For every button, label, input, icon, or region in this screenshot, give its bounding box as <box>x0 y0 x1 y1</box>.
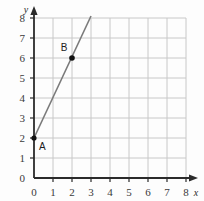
data-point-a <box>31 135 36 140</box>
y-axis-name: y <box>23 4 29 15</box>
y-tick-label-5: 5 <box>20 72 26 84</box>
y-axis-arrow <box>30 6 37 15</box>
x-tick-labels: 0 1 2 3 4 5 6 7 8 <box>31 186 189 198</box>
y-tick-label-3: 3 <box>20 112 26 124</box>
y-tick-label-0: 0 <box>20 172 26 184</box>
grid-lines <box>34 18 186 178</box>
x-tick-label-1: 1 <box>50 186 56 198</box>
x-axis-name: x <box>193 187 199 198</box>
plotted-line-ab <box>34 16 91 138</box>
data-point-b <box>69 55 75 61</box>
coordinate-plane-figure: 0 1 2 3 4 5 6 7 8 0 1 2 3 4 5 6 7 8 y x <box>0 0 204 201</box>
x-axis-arrow <box>189 174 198 181</box>
x-tick-label-3: 3 <box>88 186 94 198</box>
y-tick-label-6: 6 <box>20 52 26 64</box>
y-tick-label-7: 7 <box>20 32 26 44</box>
y-tick-labels: 0 1 2 3 4 5 6 7 8 <box>20 12 26 184</box>
x-tick-label-5: 5 <box>126 186 132 198</box>
x-tick-label-8: 8 <box>183 186 189 198</box>
x-tick-label-2: 2 <box>69 186 75 198</box>
x-tick-label-6: 6 <box>145 186 151 198</box>
axis-lines <box>30 6 198 182</box>
y-tick-label-4: 4 <box>20 92 26 104</box>
x-tick-label-4: 4 <box>107 186 113 198</box>
y-tick-label-2: 2 <box>20 132 26 144</box>
x-tick-label-0: 0 <box>31 186 37 198</box>
point-label-a: A <box>39 141 46 152</box>
x-tick-label-7: 7 <box>164 186 170 198</box>
y-tick-label-1: 1 <box>20 152 26 164</box>
point-label-b: B <box>61 42 68 53</box>
graph-canvas: 0 1 2 3 4 5 6 7 8 0 1 2 3 4 5 6 7 8 y x <box>0 0 204 201</box>
